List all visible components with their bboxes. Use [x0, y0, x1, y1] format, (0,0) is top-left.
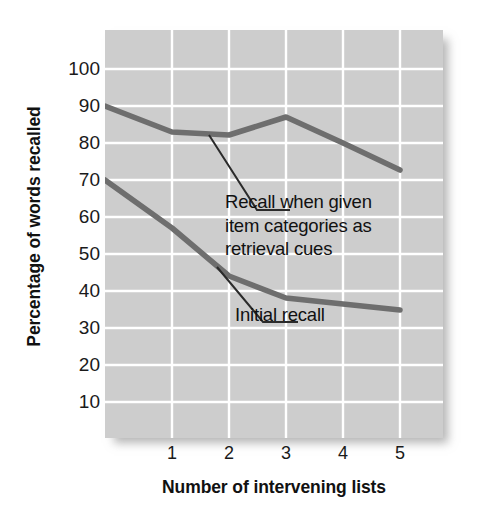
x-tick-label: 4 [328, 443, 358, 464]
y-tick-label: 50 [54, 244, 100, 263]
y-tick-label: 10 [54, 392, 100, 411]
annotation-line: item categories as [225, 214, 372, 238]
y-tick-label: 20 [54, 355, 100, 374]
chart-figure: Percentage of words recalled 100 90 80 7… [0, 0, 493, 516]
y-tick-label: 90 [54, 96, 100, 115]
y-tick-label: 40 [54, 281, 100, 300]
y-tick-label: 30 [54, 318, 100, 337]
annotation-cued-recall: Recall when given item categories as ret… [225, 190, 372, 261]
y-axis-tick-labels: 100 90 80 70 60 50 40 30 20 10 [50, 0, 100, 516]
series-line-cued-recall [105, 106, 400, 170]
y-tick-label: 60 [54, 207, 100, 226]
x-tick-label: 1 [157, 443, 187, 464]
y-tick-label: 100 [54, 59, 100, 78]
x-axis-title: Number of intervening lists [105, 477, 443, 498]
annotation-line: Recall when given [225, 190, 372, 214]
x-tick-label: 2 [214, 443, 244, 464]
annotation-initial-recall: Initial recall [235, 303, 325, 327]
y-tick-label: 70 [54, 170, 100, 189]
y-axis-title: Percentage of words recalled [24, 62, 45, 392]
y-tick-label: 80 [54, 133, 100, 152]
x-tick-label: 3 [271, 443, 301, 464]
annotation-line: retrieval cues [225, 237, 372, 261]
x-tick-label: 5 [385, 443, 415, 464]
annotation-line: Initial recall [235, 303, 325, 327]
